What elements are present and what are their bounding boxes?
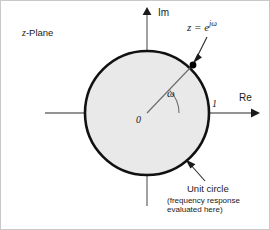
imaginary-axis-arrowhead [143,7,152,15]
equation-leader [193,37,207,63]
imaginary-axis-label: Im [158,7,169,18]
unit-circle-note-line-2: evaluated here) [167,206,240,215]
equation-leader-arrowhead [193,54,202,64]
unit-tick-label: 1 [212,98,217,109]
angle-omega-label: ω [167,87,175,99]
real-axis-label: Re [239,92,252,103]
z-plane-figure: z-Plane Im Re 1 0 ω z = ejω Unit circle … [0,0,270,230]
unit-circle-leader-arrowhead [186,159,196,168]
equation-leader-line [197,37,207,57]
real-axis-arrowhead [251,109,260,118]
origin-label: 0 [136,114,141,125]
unit-circle-annotation-title: Unit circle [187,184,229,195]
unit-circle-annotation-note: (frequency response evaluated here) [167,197,240,215]
point-equation-label: z = ejω [187,20,217,33]
point-equation-exponent: jω [209,19,217,28]
point-equation-equals: = [191,21,204,33]
z-plane-label-suffix: -Plane [26,27,53,38]
z-plane-label: z-Plane [22,27,53,39]
unit-circle-leader [186,159,205,181]
